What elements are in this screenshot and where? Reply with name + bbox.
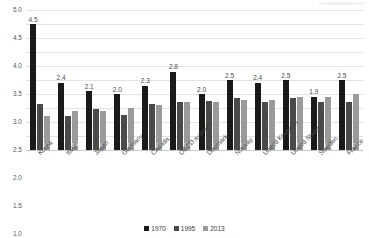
y-axis-tick-label: 2.5 <box>13 147 22 154</box>
bar-value-label: 2.4 <box>253 75 262 82</box>
legend-label: 2013 <box>210 226 224 233</box>
bar: 2.3 <box>142 86 148 150</box>
bar-value-label: 2.0 <box>113 87 122 94</box>
bar-group: 2.01.5 <box>110 10 138 150</box>
legend-label: 1970 <box>151 226 165 233</box>
bar: 2.0 <box>199 94 205 150</box>
top-right-artifact <box>319 2 365 5</box>
bar-group: 2.52.0 <box>335 10 363 150</box>
legend-item[interactable]: 1970 <box>144 226 165 233</box>
bar: 2.0 <box>114 94 120 150</box>
legend-item[interactable]: 2013 <box>203 226 224 233</box>
bar: 2.1 <box>86 91 92 150</box>
bar-value-label: 2.1 <box>85 84 94 91</box>
y-axis-tick-label: 4.5 <box>13 35 22 42</box>
bar-group: 2.11.4 <box>82 10 110 150</box>
y-axis-tick-label: 3.0 <box>13 119 22 126</box>
y-axis-tick-label: 1.5 <box>13 203 22 210</box>
bar-group: 2.31.6 <box>138 10 166 150</box>
y-axis-tick-label: 2.0 <box>13 175 22 182</box>
bar: 2.5 <box>339 80 345 150</box>
y-axis-tick-label: 4.0 <box>13 63 22 70</box>
bar: 2.4 <box>255 83 261 150</box>
legend-label: 1995 <box>181 226 195 233</box>
y-axis-tick-label: 5.0 <box>13 7 22 14</box>
bar: 2.4 <box>58 83 64 150</box>
gridline: 0.0 <box>26 150 363 151</box>
bar-value-label: 1.9 <box>309 89 318 96</box>
bar-value-label: 2.4 <box>57 75 66 82</box>
bar-value-label: 2.8 <box>169 64 178 71</box>
bar: 4.5 <box>30 24 36 150</box>
category-axis: KoreaItalyJapanGermanyCanadaOECD average… <box>26 152 363 212</box>
y-axis-tick-label: 3.5 <box>13 91 22 98</box>
bar-group: 4.51.2 <box>26 10 54 150</box>
legend-swatch-icon <box>144 226 149 231</box>
bar-value-label: 4.5 <box>29 17 38 24</box>
bar-group: 2.41.8 <box>251 10 279 150</box>
bar-group: 2.41.4 <box>54 10 82 150</box>
chart-legend: 197019952013 <box>0 226 369 233</box>
bar-value-label: 2.5 <box>225 73 234 80</box>
bar-value-label: 2.3 <box>141 78 150 85</box>
bar-value-label: 2.0 <box>197 87 206 94</box>
bar-group: 2.51.8 <box>223 10 251 150</box>
bar-group: 2.81.7 <box>166 10 194 150</box>
legend-swatch-icon <box>174 226 179 231</box>
legend-item[interactable]: 1995 <box>174 226 195 233</box>
bar-value-label: 2.5 <box>281 73 290 80</box>
bar: 2.8 <box>170 72 176 150</box>
bar-value-label: 2.5 <box>337 73 346 80</box>
legend-swatch-icon <box>203 226 208 231</box>
bar-chart: 0.00.51.01.52.02.53.03.54.04.55.0 4.51.2… <box>0 0 369 238</box>
